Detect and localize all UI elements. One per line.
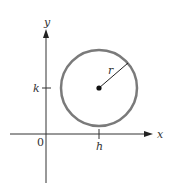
y-axis-arrow-icon bbox=[43, 29, 49, 38]
y-axis-label: y bbox=[43, 16, 51, 29]
center-point bbox=[96, 85, 101, 90]
x-axis-arrow-icon bbox=[144, 131, 153, 137]
origin-label: 0 bbox=[37, 136, 44, 149]
radius-line bbox=[99, 63, 128, 88]
circle-diagram: y x 0 k h r bbox=[0, 0, 174, 192]
h-tick-label: h bbox=[96, 140, 103, 153]
radius-label: r bbox=[108, 64, 114, 77]
k-tick-label: k bbox=[33, 82, 40, 95]
x-axis-label: x bbox=[157, 128, 164, 141]
